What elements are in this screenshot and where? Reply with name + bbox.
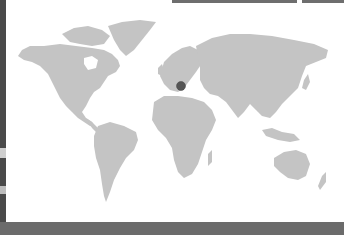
north-america (18, 44, 120, 128)
world-map (0, 0, 344, 222)
africa (152, 96, 216, 178)
south-america (94, 122, 138, 202)
australia (274, 150, 310, 180)
greenland (108, 20, 156, 56)
indonesia (262, 128, 300, 142)
arctic-islands (62, 26, 110, 46)
location-marker[interactable] (177, 82, 186, 91)
bottom-bar (0, 222, 344, 235)
new-zealand (318, 172, 326, 190)
japan (302, 74, 310, 90)
madagascar (208, 150, 212, 166)
